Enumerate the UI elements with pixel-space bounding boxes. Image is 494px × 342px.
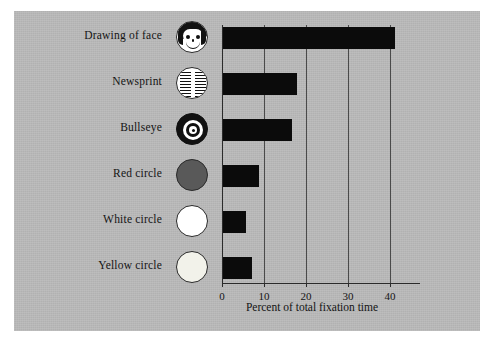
newsprint-icon <box>176 67 208 99</box>
gridline-40 <box>390 25 391 283</box>
gridline-20 <box>306 25 307 283</box>
category-label-4: White circle <box>14 213 162 225</box>
category-label-5: Yellow circle <box>14 259 162 271</box>
plot-area: 0 10 20 30 40 <box>222 25 400 283</box>
yellow-circle-icon <box>176 251 208 283</box>
bar-newsprint <box>223 73 297 95</box>
x-tick-20 <box>306 283 307 287</box>
bar-red-circle <box>223 165 259 187</box>
x-tick-30 <box>348 283 349 287</box>
bar-drawing-of-face <box>223 27 395 49</box>
bar-bullseye <box>223 119 292 141</box>
x-axis-title: Percent of total fixation time <box>212 301 412 313</box>
category-label-2: Bullseye <box>14 121 162 133</box>
red-circle-icon <box>176 159 208 191</box>
gridline-30 <box>348 25 349 283</box>
category-label-0: Drawing of face <box>14 29 162 41</box>
category-label-1: Newsprint <box>14 75 162 87</box>
bar-yellow-circle <box>223 257 252 279</box>
x-tick-10 <box>264 283 265 287</box>
white-circle-icon <box>176 205 208 237</box>
x-tick-0 <box>222 283 223 287</box>
gridline-10 <box>264 25 265 283</box>
x-tick-40 <box>390 283 391 287</box>
category-label-3: Red circle <box>14 167 162 179</box>
y-axis-line <box>222 25 223 284</box>
bar-white-circle <box>223 211 246 233</box>
face-icon <box>176 21 208 53</box>
figure-panel: Drawing of face Newsprint Bullseye <box>14 11 480 331</box>
bullseye-icon <box>176 113 208 145</box>
